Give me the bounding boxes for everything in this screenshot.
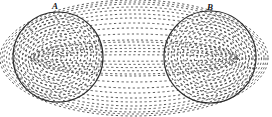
field-line [12,14,105,101]
field-line-figure: A B [0,0,272,117]
field-line [203,51,217,64]
field-lines-canvas [0,0,272,117]
inner-field-loops-b [156,5,264,108]
inner-field-loops-a [5,7,110,108]
label-b: B [207,3,213,12]
field-line [156,5,264,108]
field-line [206,54,213,60]
circle-A [13,12,103,102]
label-a: A [52,2,58,11]
field-line [26,34,242,82]
field-line [14,15,102,98]
field-line [198,46,221,67]
field-line [54,54,61,60]
